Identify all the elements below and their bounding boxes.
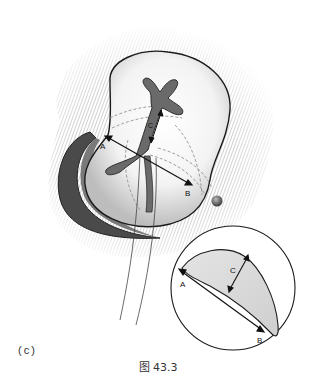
figure-caption: 图 43.3: [0, 358, 316, 374]
label-b: B: [185, 189, 190, 198]
inset-label-b: B: [257, 336, 262, 345]
panel-label: (c): [18, 344, 37, 356]
stone-bead: [212, 196, 223, 207]
inset-label-a: A: [180, 280, 186, 289]
label-c: C: [148, 122, 153, 129]
inset-detail: A B C: [171, 226, 295, 350]
inset-label-c: C: [230, 266, 236, 275]
surgical-illustration: A B C A B C: [0, 0, 316, 387]
label-a: A: [100, 142, 106, 151]
